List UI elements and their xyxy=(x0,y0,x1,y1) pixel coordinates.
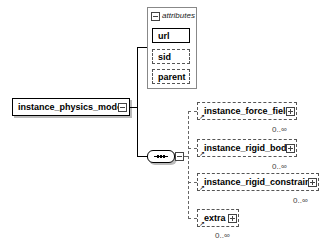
attribute-parent[interactable]: parent xyxy=(152,69,190,84)
connector xyxy=(188,111,189,219)
child-element-instance-force-field[interactable]: ↗ instance_force_field xyxy=(197,102,297,120)
cardinality-label: 0..∞ xyxy=(272,125,287,134)
collapse-icon[interactable] xyxy=(118,103,127,112)
cardinality-label: 0..∞ xyxy=(272,162,287,171)
sequence-compositor[interactable] xyxy=(147,150,175,163)
sequence-dot xyxy=(160,155,162,158)
sequence-dot xyxy=(163,155,165,158)
root-element-instance-physics-model[interactable]: instance_physics_model xyxy=(12,98,130,116)
collapse-sequence-icon[interactable] xyxy=(175,152,184,161)
connector xyxy=(137,47,138,157)
attributes-title: attributes xyxy=(162,11,195,20)
attributes-panel: attributes url sid parent xyxy=(147,7,197,89)
attribute-label: sid xyxy=(158,52,171,62)
cardinality-label: 0..∞ xyxy=(215,231,230,240)
child-element-label: instance_rigid_constraint xyxy=(204,177,314,187)
connector xyxy=(188,111,197,112)
attribute-label: url xyxy=(158,31,170,41)
connector xyxy=(188,148,197,149)
attribute-url[interactable]: url xyxy=(152,28,190,43)
child-element-instance-rigid-body[interactable]: ↗ instance_rigid_body xyxy=(197,139,297,157)
connector xyxy=(188,218,197,219)
child-element-label: instance_rigid_body xyxy=(204,143,292,153)
connector xyxy=(188,182,197,183)
expand-icon[interactable] xyxy=(228,214,237,223)
connector xyxy=(137,156,147,157)
cardinality-label: 0..∞ xyxy=(293,196,308,205)
expand-icon[interactable] xyxy=(286,144,295,153)
expand-icon[interactable] xyxy=(286,107,295,116)
child-element-label: instance_force_field xyxy=(204,106,291,116)
child-element-label: extra xyxy=(204,213,226,223)
child-element-instance-rigid-constraint[interactable]: ↗ instance_rigid_constraint xyxy=(197,173,319,191)
child-element-extra[interactable]: ↗ extra xyxy=(197,209,239,227)
sequence-dot xyxy=(157,155,159,158)
expand-icon[interactable] xyxy=(308,178,317,187)
collapse-attributes-icon[interactable] xyxy=(151,12,160,21)
attribute-label: parent xyxy=(158,72,186,82)
attribute-sid[interactable]: sid xyxy=(152,49,190,64)
root-element-label: instance_physics_model xyxy=(18,102,125,112)
connector xyxy=(137,47,147,48)
